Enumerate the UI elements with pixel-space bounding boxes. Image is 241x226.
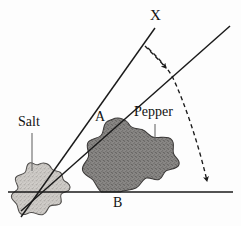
label-x: X <box>150 8 161 23</box>
dashed-arc-first-step <box>145 46 166 68</box>
label-b: B <box>113 196 122 210</box>
diagram-canvas: X A B Salt Pepper <box>0 0 241 226</box>
label-salt: Salt <box>18 115 40 129</box>
label-pepper: Pepper <box>134 105 173 119</box>
diagram-svg <box>0 0 241 226</box>
label-a: A <box>95 110 105 124</box>
pepper-blob <box>82 118 179 192</box>
